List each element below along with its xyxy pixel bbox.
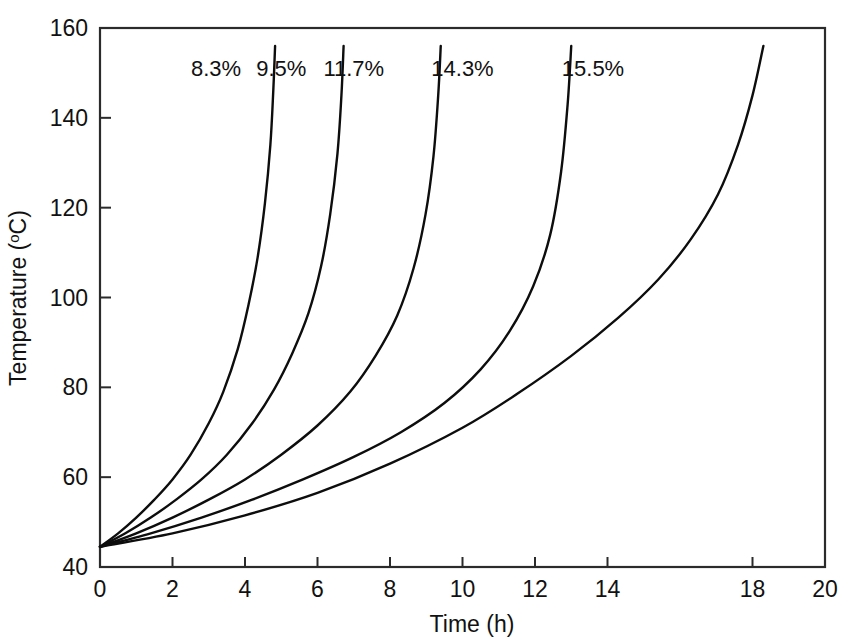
x-tick-label: 8 bbox=[384, 576, 397, 602]
x-tick-label: 0 bbox=[94, 576, 107, 602]
y-tick-label: 40 bbox=[62, 554, 88, 580]
x-tick-label: 2 bbox=[166, 576, 179, 602]
y-tick-label: 120 bbox=[50, 195, 88, 221]
degree-symbol: o bbox=[5, 234, 22, 242]
chart-background bbox=[0, 0, 843, 642]
y-tick-label: 80 bbox=[62, 374, 88, 400]
series-label: 14.3% bbox=[431, 56, 493, 81]
x-tick-label: 18 bbox=[740, 576, 766, 602]
y-axis-title-base: Temperature ( bbox=[5, 242, 31, 386]
y-tick-label: 140 bbox=[50, 105, 88, 131]
x-tick-label: 14 bbox=[595, 576, 621, 602]
series-label: 15.5% bbox=[562, 56, 624, 81]
series-label: 9.5% bbox=[256, 56, 306, 81]
temperature-time-line-chart: 024681012141820 406080100120140160 8.3%9… bbox=[0, 0, 843, 642]
x-tick-label: 20 bbox=[812, 576, 838, 602]
y-tick-label: 100 bbox=[50, 285, 88, 311]
x-tick-label: 12 bbox=[522, 576, 548, 602]
x-tick-label: 4 bbox=[239, 576, 252, 602]
chart-figure: 024681012141820 406080100120140160 8.3%9… bbox=[0, 0, 843, 642]
y-tick-label: 160 bbox=[50, 15, 88, 41]
series-label: 8.3% bbox=[191, 56, 241, 81]
x-tick-label: 10 bbox=[450, 576, 476, 602]
y-tick-label: 60 bbox=[62, 464, 88, 490]
x-axis-title: Time (h) bbox=[430, 611, 515, 637]
series-label: 11.7% bbox=[323, 56, 384, 81]
y-axis-title-tail: C) bbox=[5, 210, 31, 234]
x-tick-label: 6 bbox=[311, 576, 324, 602]
